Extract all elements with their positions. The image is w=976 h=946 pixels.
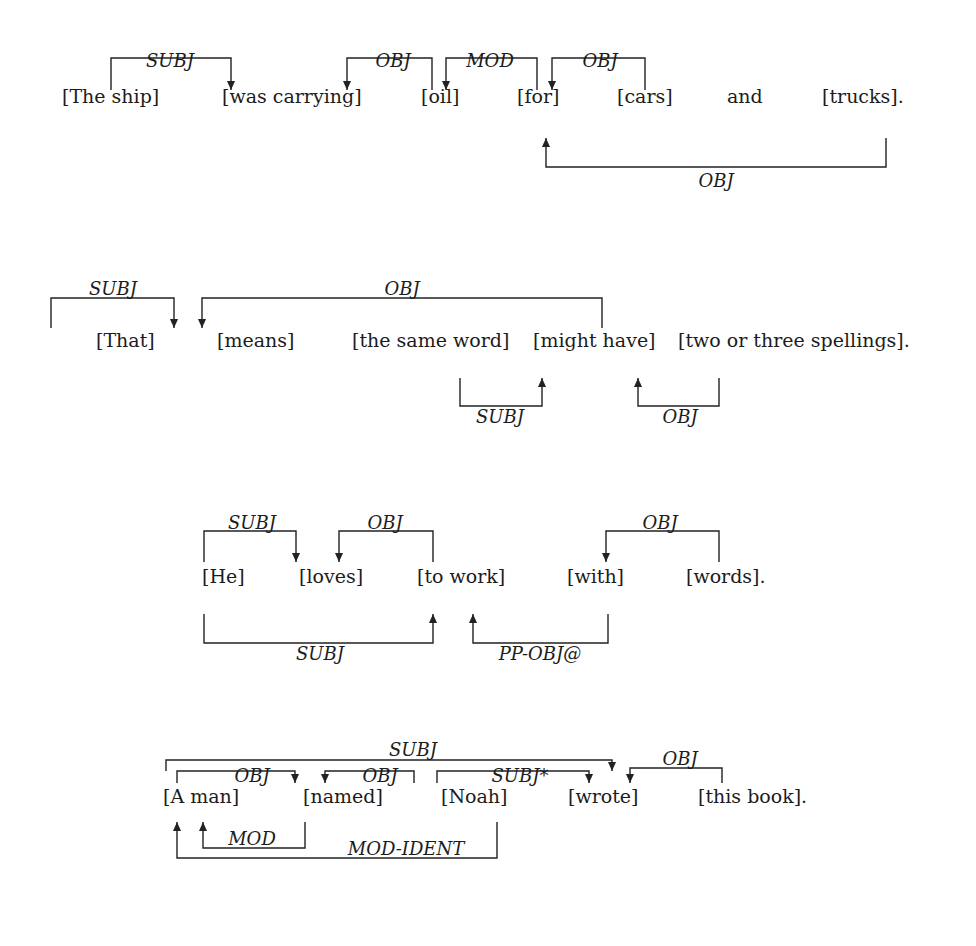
arrowhead-icon — [429, 614, 437, 623]
dependency-arc — [638, 378, 719, 406]
dependency-label: OBJ — [362, 767, 397, 785]
word-token: [cars] — [617, 87, 673, 106]
word-token: [Noah] — [441, 787, 507, 806]
arrowhead-icon — [291, 774, 299, 783]
word-token: [with] — [567, 567, 624, 586]
dependency-arc — [204, 531, 296, 562]
word-token: [The ship] — [62, 87, 159, 106]
word-token: [this book]. — [698, 787, 807, 806]
arrowhead-icon — [469, 614, 477, 623]
word-token: [was carrying] — [222, 87, 362, 106]
dependency-label: OBJ — [234, 767, 269, 785]
dependency-arc — [460, 378, 542, 406]
dependency-label: OBJ — [662, 750, 697, 768]
arrowhead-icon — [170, 319, 178, 328]
word-token: [loves] — [299, 567, 363, 586]
arrowhead-icon — [602, 553, 610, 562]
dependency-arc — [204, 614, 433, 643]
dependency-label: SUBJ — [89, 280, 137, 298]
word-token: [the same word] — [352, 331, 509, 350]
word-token: [He] — [202, 567, 245, 586]
arrowhead-icon — [335, 553, 343, 562]
dependency-arc — [51, 298, 174, 328]
dependency-arc — [339, 531, 433, 562]
dependency-label: OBJ — [384, 280, 419, 298]
dependency-label: OBJ — [367, 514, 402, 532]
word-token: [words]. — [686, 567, 766, 586]
dependency-label: MOD-IDENT — [348, 840, 464, 858]
dependency-label: MOD — [466, 52, 514, 70]
arrowhead-icon — [585, 774, 593, 783]
sentence-s3-arcs — [204, 531, 719, 643]
dependency-label: SUBJ — [476, 408, 524, 426]
dependency-arc — [606, 531, 719, 562]
word-token: [trucks]. — [822, 87, 904, 106]
arrowhead-icon — [634, 378, 642, 387]
sentence-s2-arcs — [51, 298, 719, 406]
word-token: [named] — [303, 787, 383, 806]
arrowhead-icon — [608, 762, 616, 771]
dependency-label: MOD — [228, 830, 276, 848]
word-token: [wrote] — [568, 787, 639, 806]
dependency-arc — [202, 298, 602, 328]
word-token: [A man] — [163, 787, 239, 806]
arrowhead-icon — [198, 319, 206, 328]
word-token: and — [727, 87, 763, 106]
dependency-label: OBJ — [698, 172, 733, 190]
dependency-label: OBJ — [662, 408, 697, 426]
word-token: [means] — [217, 331, 294, 350]
word-token: [two or three spellings]. — [678, 331, 910, 350]
word-token: [That] — [96, 331, 155, 350]
dependency-label: OBJ — [582, 52, 617, 70]
word-token: [for] — [517, 87, 559, 106]
dependency-arc — [473, 614, 608, 643]
dependency-label: PP-OBJ@ — [499, 645, 582, 663]
arrowhead-icon — [538, 378, 546, 387]
dependency-label: SUBJ — [296, 645, 344, 663]
dependency-label: OBJ — [642, 514, 677, 532]
sentence-s1-arcs — [111, 58, 886, 167]
word-token: [oil] — [421, 87, 459, 106]
dependency-label: SUBJ — [228, 514, 276, 532]
dependency-label: OBJ — [375, 52, 410, 70]
dependency-diagram: [The ship][was carrying][oil][for][cars]… — [0, 0, 976, 946]
arrowhead-icon — [321, 774, 329, 783]
dependency-arc — [630, 768, 722, 783]
arrowhead-icon — [199, 822, 207, 831]
dependency-label: SUBJ* — [492, 767, 549, 785]
dependency-label: SUBJ — [389, 741, 437, 759]
dependency-label: SUBJ — [146, 52, 194, 70]
dependency-arc — [546, 138, 886, 167]
arrowhead-icon — [173, 822, 181, 831]
word-token: [to work] — [417, 567, 505, 586]
word-token: [might have] — [533, 331, 656, 350]
arrowhead-icon — [542, 138, 550, 147]
arrowhead-icon — [626, 774, 634, 783]
arrowhead-icon — [292, 553, 300, 562]
